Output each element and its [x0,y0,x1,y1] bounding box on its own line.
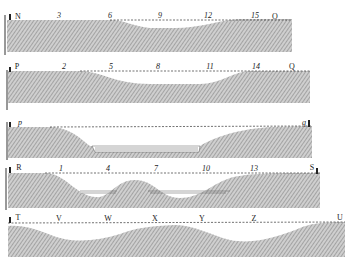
section-start-label: p [18,119,22,127]
section-start-label: R [16,164,21,172]
station-label: 10 [202,165,210,173]
section-end-label: U [337,214,343,222]
station-label: 13 [250,165,258,173]
station-label: 9 [158,12,162,20]
section-r-s [6,167,320,210]
datum-marker [9,14,11,20]
ground-mass [7,19,292,52]
datum-marker [9,67,11,72]
ground-mass [8,222,345,257]
station-label: 11 [206,63,213,71]
section-end-label: O [272,13,278,21]
ground-mass [8,173,320,208]
datum-marker [9,167,11,173]
section-start-label: N [15,13,21,21]
cross-section-figure [0,0,350,261]
water-lens [92,146,200,152]
section-p-q-upper [7,67,310,110]
datum-marker [316,168,318,174]
station-label: 12 [204,12,212,20]
section-start-label: T [16,214,21,222]
section-p-q-lower [7,120,312,160]
station-label: 1 [59,165,63,173]
station-label: 15 [251,12,259,20]
ground-mass [8,126,312,158]
station-label: Y [199,215,205,223]
station-label: 5 [109,63,113,71]
station-label: 14 [252,63,260,71]
section-end-label: Q [289,63,295,71]
station-label: W [104,215,112,223]
section-t-u [8,217,345,257]
section-end-label: q [302,119,306,127]
station-label: 4 [106,165,110,173]
ground-mass [8,71,310,103]
level-line [50,126,312,127]
datum-marker [9,217,11,223]
station-label: 6 [108,12,112,20]
datum-marker [308,120,310,127]
section-n-o [5,14,292,55]
station-label: X [152,215,158,223]
station-label: 8 [156,63,160,71]
station-label: V [56,215,62,223]
section-end-label: S [310,164,314,172]
station-label: 2 [62,63,66,71]
station-label: 7 [154,165,158,173]
station-label: 3 [57,12,61,20]
datum-marker [9,122,11,127]
section-start-label: P [15,63,19,71]
station-label: Z [252,215,257,223]
